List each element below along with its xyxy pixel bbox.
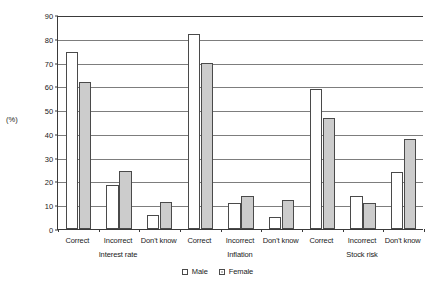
x-category-label: Incorrect <box>104 236 132 245</box>
bar-male <box>66 52 79 229</box>
legend-label: Female <box>229 267 253 276</box>
x-category-label: Don't know <box>385 236 421 245</box>
y-axis-title: (%) <box>6 115 18 124</box>
x-category-label: Incorrect <box>226 236 254 245</box>
x-group-label: Interest rate <box>99 250 138 259</box>
bar-male <box>350 196 363 229</box>
y-tick-label: 60 <box>45 83 53 92</box>
x-category-label: Don't know <box>141 236 177 245</box>
legend-item: Female <box>219 267 253 276</box>
bar-female <box>323 118 336 229</box>
bar-male <box>147 215 160 229</box>
bar-male <box>269 217 282 229</box>
legend: MaleFemale <box>0 267 435 276</box>
x-tick-mark <box>221 229 222 232</box>
y-tick-label: 70 <box>45 59 53 68</box>
y-tick-label: 40 <box>45 130 53 139</box>
bar-female <box>363 203 376 229</box>
y-tick-label: 30 <box>45 154 53 163</box>
x-tick-mark <box>58 229 59 232</box>
x-category-label: Correct <box>187 236 211 245</box>
y-tick-label: 10 <box>45 202 53 211</box>
y-tick-label: 80 <box>45 35 53 44</box>
x-tick-mark <box>180 229 181 232</box>
bars-layer <box>58 16 423 229</box>
bar-male <box>391 172 404 229</box>
x-tick-mark <box>99 229 100 232</box>
x-tick-mark <box>139 229 140 232</box>
bar-female <box>282 200 295 229</box>
bar-male <box>228 203 241 229</box>
x-tick-mark <box>424 229 425 232</box>
bar-male <box>310 89 323 229</box>
bar-female <box>201 63 214 229</box>
legend-swatch-female <box>219 269 225 275</box>
bar-male <box>106 185 119 229</box>
x-category-label: Correct <box>65 236 89 245</box>
bar-female <box>404 139 417 229</box>
x-tick-mark <box>343 229 344 232</box>
x-category-label: Correct <box>309 236 333 245</box>
x-group-label: Inflation <box>227 250 252 259</box>
bar-male <box>188 34 201 229</box>
bar-female <box>241 196 254 229</box>
legend-swatch-male <box>182 269 188 275</box>
bar-chart: (%) 0102030405060708090 CorrectIncorrect… <box>0 0 435 291</box>
x-tick-mark <box>302 229 303 232</box>
y-tick-label: 90 <box>45 12 53 21</box>
plot-area: 0102030405060708090 <box>57 16 423 230</box>
bar-female <box>160 202 173 229</box>
y-tick-label: 50 <box>45 107 53 116</box>
bar-female <box>119 171 132 229</box>
y-tick-label: 0 <box>49 226 53 235</box>
x-tick-mark <box>261 229 262 232</box>
x-category-label: Don't know <box>263 236 299 245</box>
x-category-label: Incorrect <box>348 236 376 245</box>
legend-item: Male <box>182 267 208 276</box>
y-tick-label: 20 <box>45 178 53 187</box>
x-group-label: Stock risk <box>346 250 378 259</box>
x-tick-mark <box>383 229 384 232</box>
bar-female <box>79 82 92 229</box>
legend-label: Male <box>192 267 208 276</box>
